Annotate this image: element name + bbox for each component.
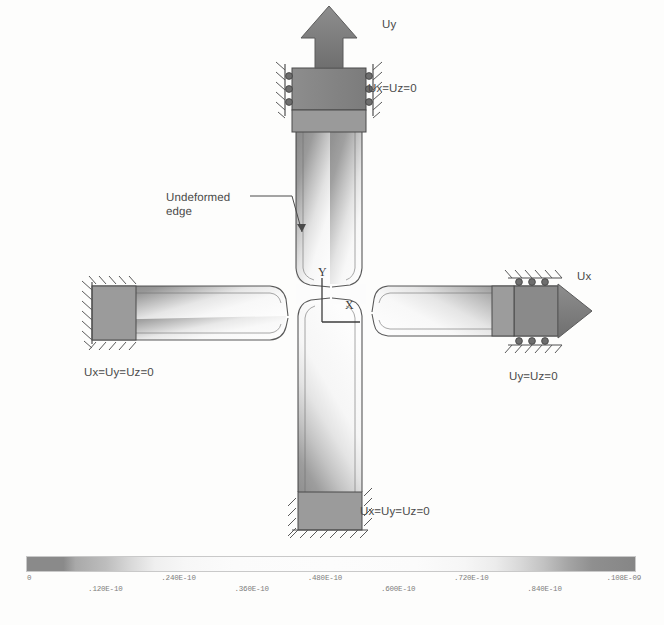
roller-icon (516, 338, 523, 345)
axis-label-x: X (345, 298, 354, 313)
colorbar-tick: 0 (27, 574, 31, 582)
bc-label-right: Uy=Uz=0 (509, 370, 558, 384)
colorbar-tick-labels: 0.120E-10.240E-10.360E-10.480E-10.600E-1… (26, 556, 636, 596)
figure-page: Uy Ux=Uz=0 Ux Uy=Uz=0 Ux=Uy=Uz=0 Ux=Uy=U… (0, 0, 664, 625)
contour-body (92, 130, 560, 492)
axis-label-y: Y (318, 265, 327, 280)
load-label-ux: Ux (577, 270, 591, 284)
roller-icon (286, 86, 293, 93)
roller-icon (366, 73, 373, 80)
undeformed-edge-line1: Undeformed (166, 192, 230, 204)
roller-icon (286, 73, 293, 80)
arm-top-contour (296, 130, 330, 286)
bc-label-top: Ux=Uz=0 (368, 82, 417, 96)
bc-right-bottom-hatch (505, 345, 562, 353)
bc-top-group (276, 62, 382, 132)
arm-top-contour-right (330, 130, 362, 286)
bc-left-hatch-top (89, 276, 136, 284)
center-hub (296, 284, 366, 304)
roller-icon (529, 338, 536, 345)
colorbar-tick: .600E-10 (381, 585, 415, 593)
bc-right-top-hatch (505, 270, 562, 278)
roller-icon (542, 279, 549, 286)
colorbar-tick: .840E-10 (527, 585, 561, 593)
bc-left-hatch-bottom (89, 342, 136, 350)
colorbar-tick: .108E-09 (607, 574, 641, 582)
colorbar-legend: 0.120E-10.240E-10.360E-10.480E-10.600E-1… (26, 556, 636, 572)
bc-top-left-hatch (276, 62, 285, 118)
bc-bottom-block (298, 492, 362, 530)
bc-label-bottom: Ux=Uy=Uz=0 (360, 505, 430, 519)
colorbar-tick: .240E-10 (161, 574, 195, 582)
bc-top-block (292, 68, 366, 110)
fea-contour-figure: Uy Ux=Uz=0 Ux Uy=Uz=0 Ux=Uy=Uz=0 Ux=Uy=U… (0, 0, 664, 545)
bc-top-block-lower (292, 110, 366, 132)
undeformed-edge-label: Undeformed edge (166, 191, 230, 220)
bc-left-hatch (82, 281, 92, 348)
bc-bottom-hatch (290, 530, 368, 538)
roller-icon (542, 338, 549, 345)
colorbar-tick: .480E-10 (308, 574, 342, 582)
roller-icon (516, 279, 523, 286)
load-label-uy: Uy (382, 18, 396, 32)
roller-icon (286, 99, 293, 106)
bc-left-block (92, 286, 136, 340)
load-arrow-uy (301, 6, 357, 68)
bc-label-left: Ux=Uy=Uz=0 (84, 366, 154, 380)
roller-icon (366, 99, 373, 106)
bc-left-group (82, 276, 136, 350)
roller-icon (529, 279, 536, 286)
undeformed-edge-line2: edge (166, 206, 192, 218)
bc-right-block (514, 286, 558, 336)
colorbar-tick: .360E-10 (234, 585, 268, 593)
cross-structure-drawing (0, 0, 664, 545)
bc-right-block-inner (492, 286, 514, 336)
caption-strip (0, 612, 664, 625)
colorbar-tick: .120E-10 (88, 585, 122, 593)
bc-right-group (492, 270, 562, 353)
arm-bottom-contour (298, 298, 362, 492)
colorbar-tick: .720E-10 (454, 574, 488, 582)
load-arrow-ux (558, 284, 592, 338)
